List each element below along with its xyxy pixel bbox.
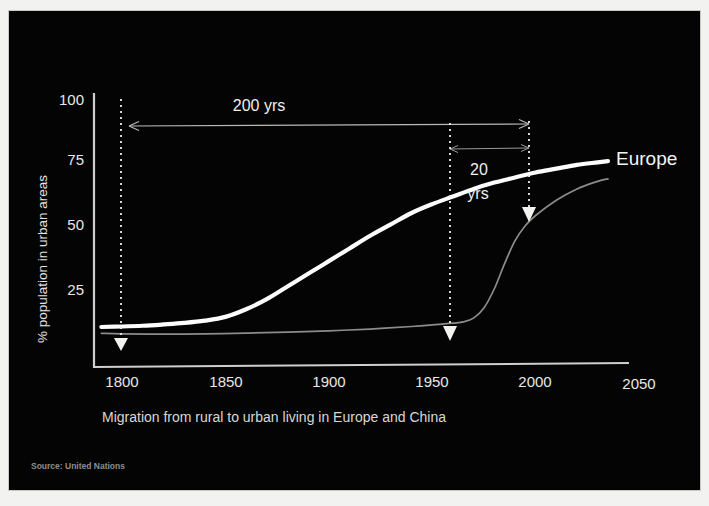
marker-1800-down-arrow-icon: [114, 338, 128, 351]
marker-1800: [114, 99, 128, 351]
span-20-label-line1: 20: [470, 161, 488, 178]
marker-1960: [443, 123, 457, 341]
slide-frame: 100 75 50 25 % population in urban areas…: [0, 0, 709, 506]
marker-2000-down-arrow-icon: [522, 207, 536, 222]
span-200-label: 200 yrs: [233, 97, 285, 114]
series-label-europe: Europe: [616, 148, 677, 169]
span-20-line: [450, 148, 529, 149]
series-line-europe: [101, 161, 608, 327]
y-tick-label-100: 100: [59, 91, 84, 108]
x-tick-label-1800: 1800: [105, 373, 138, 390]
x-tick-label-2000: 2000: [518, 373, 551, 390]
y-axis-title: % population in urban areas: [35, 175, 50, 343]
x-tick-label-1900: 1900: [312, 373, 345, 390]
x-axis-tick-labels: 1800 1850 1900 1950 2000 2050: [105, 373, 655, 392]
chart-series-group: [101, 161, 608, 334]
y-tick-label-75: 75: [67, 151, 84, 168]
chart-plot: 100 75 50 25 % population in urban areas…: [9, 11, 701, 491]
x-tick-label-2050: 2050: [622, 375, 655, 392]
series-line-china: [101, 179, 608, 334]
annotation-200-yrs: 200 yrs: [129, 97, 529, 131]
x-tick-label-1850: 1850: [209, 373, 242, 390]
y-tick-label-25: 25: [67, 281, 84, 298]
slide-canvas: 100 75 50 25 % population in urban areas…: [8, 10, 701, 491]
chart-caption: Migration from rural to urban living in …: [102, 409, 446, 425]
x-tick-label-1950: 1950: [415, 373, 448, 390]
marker-1960-down-arrow-icon: [443, 326, 457, 341]
chart-axes: [94, 93, 629, 368]
span-20-label-line2: yrs: [467, 185, 488, 202]
source-note: Source: United Nations: [31, 461, 125, 471]
y-axis-tick-labels: 100 75 50 25: [59, 91, 84, 298]
span-200-line: [129, 124, 529, 126]
x-axis-line: [94, 363, 629, 367]
y-tick-label-50: 50: [67, 216, 84, 233]
